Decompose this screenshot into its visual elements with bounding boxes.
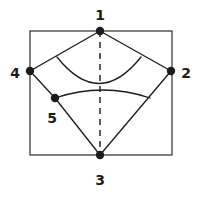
node-2 bbox=[167, 67, 175, 75]
node-label-4: 4 bbox=[10, 65, 20, 81]
bounding-rectangle bbox=[30, 31, 172, 155]
node-label-3: 3 bbox=[95, 172, 105, 188]
edge-1-2 bbox=[100, 31, 171, 71]
node-3 bbox=[96, 151, 104, 159]
diagram-figure: 1 2 3 4 5 bbox=[0, 0, 199, 199]
edge-5-3 bbox=[55, 98, 100, 155]
lower-arc bbox=[55, 90, 150, 98]
edge-4-5 bbox=[30, 71, 55, 98]
node-5 bbox=[51, 94, 59, 102]
node-1 bbox=[96, 27, 104, 35]
node-label-2: 2 bbox=[181, 65, 191, 81]
upper-arc bbox=[57, 57, 141, 84]
node-4 bbox=[26, 67, 34, 75]
node-label-1: 1 bbox=[95, 7, 105, 23]
diagram-canvas: 1 2 3 4 5 bbox=[0, 0, 199, 199]
node-label-5: 5 bbox=[47, 110, 57, 126]
edge-1-4 bbox=[30, 31, 100, 71]
edge-2-3 bbox=[100, 71, 171, 155]
